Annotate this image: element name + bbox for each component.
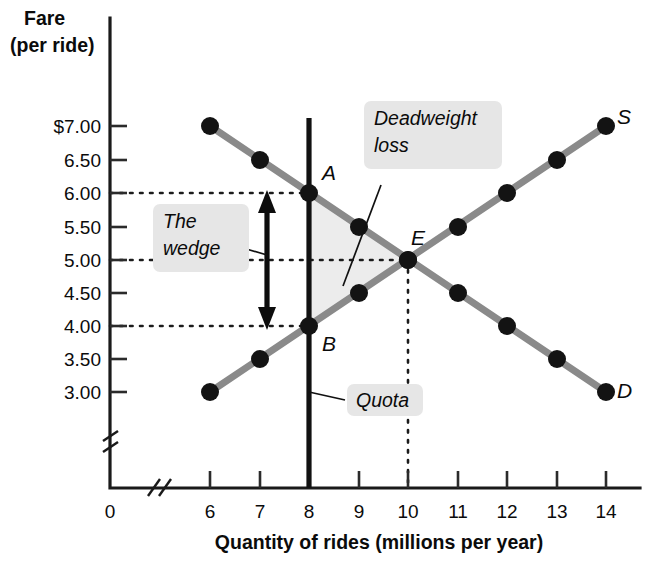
y-axis-title-line1: Fare	[24, 7, 65, 29]
point-label-a: A	[320, 161, 336, 184]
y-axis-ticks	[110, 126, 127, 392]
y-tick-label-5: 4.50	[64, 283, 101, 304]
x-tick-label-6: 12	[496, 501, 517, 522]
quota-callout-label: Quota	[356, 389, 409, 411]
deadweight-loss-callout-line2: loss	[374, 134, 409, 156]
y-axis-title-line2: (per ride)	[10, 34, 95, 56]
quota-deadweight-loss-figure: $7.00 6.50 6.00 5.50 5.00 4.50 4.00 3.50…	[0, 0, 648, 572]
wedge-callout: The wedge	[153, 204, 249, 272]
chart-svg: $7.00 6.50 6.00 5.50 5.00 4.50 4.00 3.50…	[0, 0, 648, 572]
x-tick-label-1: 7	[255, 501, 266, 522]
quota-callout: Quota	[347, 384, 423, 416]
deadweight-loss-callout-line1: Deadweight	[374, 107, 479, 129]
x-tick-label-7: 13	[546, 501, 567, 522]
x-tick-label-3: 9	[354, 501, 365, 522]
y-tick-label-2: 6.00	[64, 183, 101, 204]
demand-curve-label: D	[617, 379, 632, 402]
y-tick-label-0: $7.00	[53, 116, 101, 137]
wedge-callout-line1: The	[163, 210, 197, 232]
x-tick-label-0: 6	[205, 501, 216, 522]
x-axis-ticks	[210, 471, 606, 488]
y-tick-label-4: 5.00	[64, 250, 101, 271]
x-tick-label-5: 11	[448, 501, 468, 522]
x-tick-label-2: 8	[304, 501, 315, 522]
x-axis-title: Quantity of rides (millions per year)	[215, 531, 543, 553]
supply-curve-label: S	[617, 105, 631, 128]
y-tick-label-3: 5.50	[64, 217, 101, 238]
y-tick-label-6: 4.00	[64, 316, 101, 337]
quota-leader-line	[309, 392, 345, 400]
y-tick-label-1: 6.50	[64, 150, 101, 171]
y-tick-label-7: 3.50	[64, 349, 101, 370]
y-tick-label-8: 3.00	[64, 382, 101, 403]
point-label-e: E	[411, 226, 426, 249]
point-label-b: B	[322, 332, 336, 355]
x-tick-label-4: 10	[397, 501, 418, 522]
x-tick-label-8: 14	[595, 501, 617, 522]
deadweight-loss-callout: Deadweight loss	[364, 101, 502, 169]
wedge-callout-line2: wedge	[163, 237, 221, 259]
x-origin-label: 0	[105, 501, 116, 522]
